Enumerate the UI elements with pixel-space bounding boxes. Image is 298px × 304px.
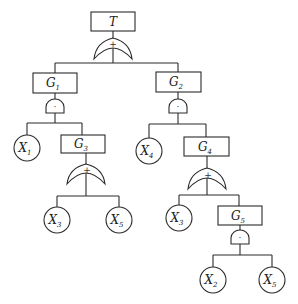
top-event-label: T	[109, 15, 118, 29]
and-gate-icon: ·	[169, 99, 187, 113]
fault-tree-diagram: T + G1 · X1 G3 + X3 X5 G2 ·	[0, 0, 298, 304]
svg-text:+: +	[204, 170, 212, 180]
basic-event-X3[interactable]: X3	[44, 207, 70, 233]
basic-event-X2[interactable]: X2	[200, 267, 226, 293]
basic-event-X4[interactable]: X4	[136, 138, 162, 164]
svg-text:·: ·	[239, 233, 242, 243]
svg-text:+: +	[83, 165, 91, 175]
gate-G3[interactable]: G3	[61, 135, 105, 153]
basic-event-X5[interactable]: X5	[259, 267, 285, 293]
basic-event-X3[interactable]: X3	[166, 205, 192, 231]
gate-G5[interactable]: G5	[218, 206, 262, 225]
gate-G4[interactable]: G4	[184, 137, 229, 156]
and-gate-icon: ·	[231, 230, 249, 244]
svg-text:·: ·	[177, 102, 180, 112]
top-event-T[interactable]: T	[91, 12, 135, 31]
gate-G1[interactable]: G1	[33, 73, 77, 93]
basic-event-X1[interactable]: X1	[14, 135, 40, 161]
basic-event-X5[interactable]: X5	[106, 207, 132, 233]
svg-text:+: +	[109, 39, 117, 49]
and-gate-icon: ·	[46, 99, 64, 113]
svg-text:·: ·	[54, 102, 57, 112]
gate-G2[interactable]: G2	[156, 72, 201, 92]
